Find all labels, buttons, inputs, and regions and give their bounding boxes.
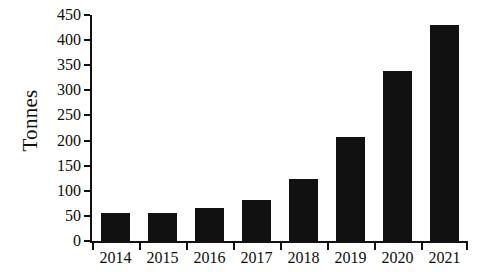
bar — [101, 213, 129, 241]
bar — [383, 71, 411, 241]
bar-slot — [280, 15, 327, 241]
x-axis-tick-label: 2014 — [92, 247, 139, 269]
bar — [289, 179, 317, 241]
y-axis-tick-label: 50 — [65, 207, 84, 223]
plot-area — [92, 15, 468, 241]
y-axis-tick-label: 100 — [57, 182, 84, 198]
bar-slot — [374, 15, 421, 241]
bar-slot — [327, 15, 374, 241]
x-axis-tick-label: 2018 — [280, 247, 327, 269]
x-axis-tick-label: 2019 — [327, 247, 374, 269]
y-axis-tick-label: 350 — [57, 57, 84, 73]
bar-slot — [233, 15, 280, 241]
bar — [148, 213, 176, 241]
bar-slot — [186, 15, 233, 241]
bar-slot — [92, 15, 139, 241]
x-axis-tick-label: 2016 — [186, 247, 233, 269]
bar — [242, 200, 270, 241]
y-axis-tick-label: 150 — [57, 157, 84, 173]
x-axis-tick-label: 2017 — [233, 247, 280, 269]
y-axis-tick-label: 0 — [73, 233, 84, 249]
y-axis-title: Tonnes — [10, 0, 50, 241]
y-axis-tick-label: 400 — [57, 32, 84, 48]
bar — [430, 25, 458, 241]
x-axis-labels: 20142015201620172018201920202021 — [92, 247, 468, 271]
y-axis-tick-label: 450 — [57, 7, 84, 23]
y-axis: 050100150200250300350400450 — [48, 0, 90, 272]
y-axis-tick-label: 200 — [57, 132, 84, 148]
bar-chart: Tonnes 050100150200250300350400450 20142… — [0, 0, 481, 272]
bar — [195, 208, 223, 241]
y-axis-tick-label: 250 — [57, 107, 84, 123]
bar-slot — [139, 15, 186, 241]
x-axis-tick-label: 2021 — [421, 247, 468, 269]
bar-slot — [421, 15, 468, 241]
y-axis-title-label: Tonnes — [18, 89, 43, 151]
y-axis-tick-label: 300 — [57, 82, 84, 98]
x-axis-tick-label: 2015 — [139, 247, 186, 269]
x-axis-tick-label: 2020 — [374, 247, 421, 269]
bar — [336, 137, 364, 241]
